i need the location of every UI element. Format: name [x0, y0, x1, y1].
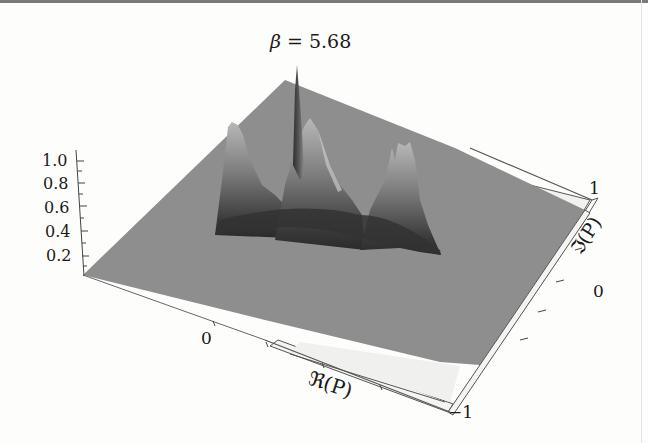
x-tick-0: 0: [201, 330, 212, 347]
beta-symbol: β: [270, 30, 281, 52]
surface-peaks: [215, 65, 441, 255]
y-tick-1: 1: [589, 180, 600, 197]
y-tick-0: 0: [593, 283, 604, 300]
z-tick-0-4: 0.4: [45, 224, 70, 240]
z-tick-0-8: 0.8: [43, 176, 68, 192]
z-tick-0-2: 0.2: [46, 248, 71, 264]
z-tick-0-6: 0.6: [44, 200, 69, 216]
z-axis: [76, 150, 89, 276]
x-tick-minus-1: −1: [448, 404, 473, 421]
title-value: 5.68: [309, 30, 351, 52]
chart-title: β = 5.68: [270, 32, 351, 51]
title-equals: =: [281, 30, 309, 52]
z-tick-1-0: 1.0: [42, 153, 67, 169]
